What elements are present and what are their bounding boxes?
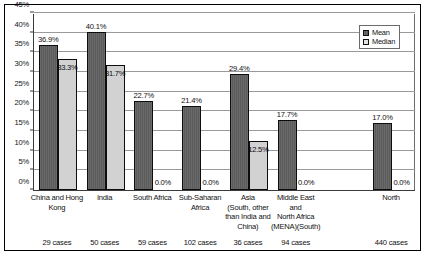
y-tick-mark bbox=[30, 31, 34, 32]
y-tick-mark bbox=[30, 12, 34, 13]
y-tick-mark bbox=[30, 130, 34, 131]
case-count-label: 94 cases bbox=[266, 238, 325, 247]
category-label-line: (MENA)(South) bbox=[266, 222, 325, 232]
y-tick-mark bbox=[30, 189, 34, 190]
bar-group: 29.4%12.5% bbox=[230, 14, 268, 190]
y-tick-mark bbox=[30, 149, 34, 150]
bar-group: 21.4%0.0% bbox=[182, 14, 220, 190]
case-count-label: 440 cases bbox=[362, 238, 421, 247]
category-label-line: Kong bbox=[27, 203, 86, 213]
bar-mean: 36.9% bbox=[39, 45, 58, 190]
legend-swatch-mean-icon bbox=[363, 30, 369, 36]
bar-median: 31.7% bbox=[106, 65, 125, 190]
bar-median: 12.5% bbox=[249, 141, 268, 190]
bar-mean: 22.7% bbox=[134, 101, 153, 190]
bar-value-label-median: 0.0% bbox=[202, 178, 219, 187]
y-tick-label: 5% bbox=[18, 157, 29, 166]
y-tick-label: 0% bbox=[18, 177, 29, 186]
bar-value-label-mean: 40.1% bbox=[86, 22, 107, 31]
bar-median-zero-slot: 0.0% bbox=[392, 178, 411, 190]
y-tick-mark bbox=[30, 71, 34, 72]
x-axis-category-label: Middle EastandNorth Africa(MENA)(South) bbox=[266, 193, 325, 231]
y-tick-mark bbox=[30, 90, 34, 91]
y-tick-mark bbox=[30, 51, 34, 52]
bar-value-label-mean: 17.0% bbox=[372, 113, 393, 122]
category-label-line: and bbox=[266, 203, 325, 213]
category-label-line: North Africa bbox=[266, 212, 325, 222]
bar-mean: 29.4% bbox=[230, 74, 249, 190]
bar-value-label-median: 33.3% bbox=[57, 63, 78, 72]
y-tick-label: 25% bbox=[14, 78, 29, 87]
category-label-line: North bbox=[362, 193, 421, 203]
bar-value-label-mean: 36.9% bbox=[38, 35, 59, 44]
x-axis-category-label: North bbox=[362, 193, 421, 203]
bar-mean: 40.1% bbox=[87, 32, 106, 190]
bar-group: 40.1%31.7% bbox=[87, 14, 125, 190]
bar-value-label-median: 0.0% bbox=[298, 178, 315, 187]
y-tick-label: 30% bbox=[14, 59, 29, 68]
y-tick-label: 45% bbox=[14, 0, 29, 9]
bar-median-zero-slot: 0.0% bbox=[153, 178, 172, 190]
y-tick-label: 15% bbox=[14, 118, 29, 127]
bar-value-label-median: 31.7% bbox=[105, 69, 126, 78]
y-tick-label: 35% bbox=[14, 39, 29, 48]
legend-item-median: Median bbox=[363, 37, 395, 46]
category-label-line: Middle East bbox=[266, 193, 325, 203]
y-tick-label: 10% bbox=[14, 137, 29, 146]
legend-swatch-median-icon bbox=[363, 39, 369, 45]
bar-value-label-mean: 29.4% bbox=[229, 64, 250, 73]
bar-mean: 17.0% bbox=[373, 123, 392, 190]
y-tick-mark bbox=[30, 169, 34, 170]
case-count-row: 29 cases50 cases59 cases102 cases36 case… bbox=[33, 238, 415, 250]
bar-value-label-median: 12.5% bbox=[248, 145, 269, 154]
bar-group: 36.9%33.3% bbox=[39, 14, 77, 190]
gridline bbox=[34, 12, 415, 13]
bar-mean: 17.7% bbox=[278, 120, 297, 190]
plot-area: 0%5%10%15%20%25%30%35%40%45% 36.9%33.3%4… bbox=[33, 14, 415, 191]
y-tick-label: 20% bbox=[14, 98, 29, 107]
bar-mean: 21.4% bbox=[182, 106, 201, 190]
y-tick-mark bbox=[30, 110, 34, 111]
bar-group: 22.7%0.0% bbox=[134, 14, 172, 190]
bar-median-zero-slot: 0.0% bbox=[297, 178, 316, 190]
bar-median-zero-slot: 0.0% bbox=[201, 178, 220, 190]
bar-value-label-median: 0.0% bbox=[393, 178, 410, 187]
bar-group: 17.7%0.0% bbox=[278, 14, 316, 190]
chart-legend: Mean Median bbox=[359, 25, 400, 49]
bar-value-label-mean: 22.7% bbox=[134, 91, 155, 100]
y-tick-label: 40% bbox=[14, 19, 29, 28]
legend-item-mean: Mean bbox=[363, 28, 395, 37]
bar-value-label-mean: 17.7% bbox=[277, 110, 298, 119]
bar-value-label-median: 0.0% bbox=[155, 178, 172, 187]
legend-label-median: Median bbox=[372, 37, 395, 46]
x-axis-category-labels: China and HongKongIndiaSouth AfricaSub-S… bbox=[33, 193, 415, 238]
plot-right-edge bbox=[414, 14, 415, 190]
bar-median: 33.3% bbox=[58, 59, 77, 190]
bar-value-label-mean: 21.4% bbox=[181, 96, 202, 105]
legend-label-mean: Mean bbox=[372, 28, 390, 37]
bar-chart: 0%5%10%15%20%25%30%35%40%45% 36.9%33.3%4… bbox=[0, 0, 426, 256]
